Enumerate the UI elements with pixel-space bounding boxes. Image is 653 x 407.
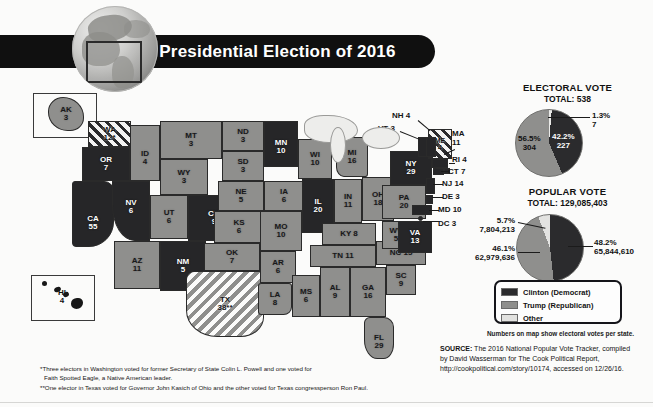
legend-label-trump: Trump (Republican) (523, 301, 593, 310)
state-WY[interactable]: WY 3 (160, 159, 208, 195)
globe-highlight-box (86, 41, 142, 83)
state-label-IA: IA 6 (280, 188, 288, 204)
state-label-AL: AL 9 (330, 284, 341, 300)
electoral-vote-total: TOTAL: 538 (482, 94, 653, 104)
state-label-ID: ID 4 (141, 150, 149, 166)
legend-label-other: Other (523, 314, 543, 323)
footnote-1-line2: Faith Spotted Eagle, a Native American l… (40, 373, 420, 382)
state-label-AR: AR 6 (272, 259, 284, 275)
state-label-PA: PA 20 (399, 194, 410, 210)
state-label-KS: KS 6 (233, 219, 244, 235)
popular-slice-trump-label: 46.1%62,979,636 (460, 244, 515, 262)
bottom-divider (0, 402, 653, 403)
stats-panel: ELECTORAL VOTE TOTAL: 538 56.5%304 42.2%… (460, 82, 653, 362)
state-KY[interactable]: KY 8 (322, 223, 376, 245)
source-block: SOURCE: The 2016 National Popular Vote T… (440, 344, 653, 374)
state-IA[interactable]: IA 6 (264, 181, 304, 211)
state-label-KY: KY 8 (340, 230, 358, 238)
state-SD[interactable]: SD 3 (222, 151, 264, 181)
state-MN[interactable]: MN 10 (264, 121, 298, 167)
state-NE[interactable]: NE 5 (218, 181, 264, 211)
state-GA[interactable]: GA 16 (350, 267, 386, 317)
state-AZ[interactable]: AZ 11 (114, 241, 160, 289)
electoral-slice-other-label: 1.3%7 (592, 111, 610, 129)
state-label-SD: SD 3 (237, 158, 248, 174)
state-WA[interactable]: WA 12* (88, 121, 131, 147)
electoral-vote-title: ELECTORAL VOTE (482, 82, 653, 93)
state-label-AZ: AZ 11 (132, 257, 143, 273)
leader-label-NH: NH 4 (392, 111, 410, 120)
source-line3: http://cookpolitical.com/story/10174, ac… (440, 365, 624, 372)
state-WI[interactable]: WI 10 (298, 139, 332, 179)
state-AL[interactable]: AL 9 (320, 267, 350, 317)
state-label-FL: FL 29 (374, 334, 384, 350)
state-FL[interactable]: FL 29 (364, 317, 394, 359)
state-label-NV: NV 6 (125, 199, 136, 215)
state-CA[interactable]: CA 55 (72, 181, 114, 247)
state-label-LA: LA 8 (270, 291, 281, 307)
source-label: SOURCE: (440, 345, 472, 352)
state-SC[interactable]: SC 9 (386, 265, 416, 295)
leader-line-MD (429, 210, 439, 211)
state-LA[interactable]: LA 8 (258, 283, 292, 315)
hawaii-island (42, 281, 47, 286)
state-OK[interactable]: OK 7 (204, 243, 260, 271)
state-MA[interactable] (432, 159, 448, 168)
state-label-ME: ME 4 (435, 137, 446, 151)
state-TX[interactable]: TX 38** (186, 271, 264, 337)
state-KS[interactable]: KS 6 (214, 211, 264, 243)
state-MS[interactable]: MS 6 (292, 275, 320, 317)
state-label-NY: NY 29 (405, 160, 416, 176)
state-VA[interactable]: VA 13 (398, 221, 432, 253)
state-TN[interactable]: TN 11 (310, 245, 376, 267)
infographic-root: Presidential Election of 2016 AK 3 HI 4 … (0, 0, 653, 407)
state-MO[interactable]: MO 10 (260, 211, 302, 251)
leader-label-MD: MD 10 (438, 205, 462, 214)
electoral-other-callout-line (548, 117, 590, 118)
state-NJ[interactable] (426, 178, 435, 194)
popular-slice-other-label: 5.7%7,804,213 (465, 216, 515, 234)
state-label-IL: IL 20 (314, 198, 323, 214)
state-MT[interactable]: MT 3 (160, 121, 222, 159)
map-note: Numbers on map show electoral votes per … (468, 330, 653, 337)
us-electoral-map: AK 3 HI 4 WA 12* OR 7 CA 55 NV 6 ID 4 MT… (0, 75, 470, 360)
source-line2: by David Wasserman for The Cook Politica… (440, 355, 600, 362)
map-legend: Clinton (Democrat) Trump (Republican) Ot… (494, 280, 622, 324)
popular-slice-clinton-label: 48.2%65,844,610 (594, 238, 634, 256)
state-ND[interactable]: ND 3 (222, 121, 264, 151)
legend-item-other[interactable]: Other (501, 312, 615, 324)
state-label-OK: OK 7 (226, 249, 238, 265)
legend-swatch-clinton (501, 288, 518, 296)
electoral-slice-trump-label: 56.5%304 (518, 134, 541, 152)
state-IN[interactable]: IN 11 (334, 179, 362, 223)
legend-item-trump[interactable]: Trump (Republican) (501, 299, 615, 311)
footnotes-block: *Three electors in Washington voted for … (40, 364, 420, 392)
state-NV[interactable]: NV 6 (112, 181, 150, 241)
popular-vote-title: POPULAR VOTE (482, 186, 653, 197)
state-OR[interactable]: OR 7 (82, 147, 130, 181)
legend-item-clinton[interactable]: Clinton (Democrat) (501, 286, 615, 298)
state-label-OR: OR 7 (100, 156, 112, 172)
state-label-MO: MO 10 (275, 223, 288, 239)
great-lakes (330, 127, 346, 163)
state-label-VA: VA 13 (410, 229, 421, 245)
popular-clinton-callout-line (568, 246, 593, 247)
state-NH[interactable] (427, 137, 436, 157)
state-UT[interactable]: UT 6 (150, 195, 188, 239)
state-label-WA: WA 12* (103, 126, 116, 142)
state-label-CA: CA 55 (87, 215, 99, 231)
page-title: Presidential Election of 2016 (159, 42, 395, 62)
electoral-slice-clinton-label: 42.2%227 (552, 132, 575, 150)
state-label-MT: MT 3 (185, 132, 197, 148)
popular-vote-total: TOTAL: 129,085,403 (482, 198, 653, 208)
state-label-WI: WI 10 (310, 151, 320, 167)
footnote-1-line1: *Three electors in Washington voted for … (40, 364, 420, 373)
state-VT[interactable] (418, 137, 427, 157)
state-label-IN: IN 11 (344, 193, 352, 209)
state-AR[interactable]: AR 6 (260, 251, 296, 283)
state-label-TX: TX 38** (217, 296, 232, 312)
state-ID[interactable]: ID 4 (130, 125, 160, 181)
leader-label-DC: DC 3 (438, 219, 456, 228)
state-label-NM: NM 5 (177, 258, 189, 274)
footnote-2: **One elector in Texas voted for Governo… (40, 383, 420, 392)
